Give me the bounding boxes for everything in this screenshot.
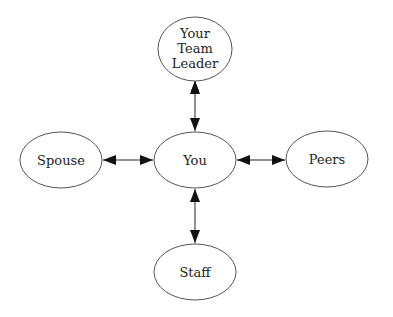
peers-label: Peers (309, 152, 345, 167)
leader-label-line-1: Your (179, 26, 211, 41)
arrow-down-to-staff (190, 230, 200, 243)
arrow-left-to-spouse (103, 155, 116, 165)
arrow-up-to-you (190, 189, 200, 202)
arrow-down-to-you (190, 118, 200, 131)
node-spouse: Spouse (20, 132, 102, 188)
staff-label: Staff (179, 265, 212, 280)
node-you: You (154, 132, 236, 188)
you-label: You (182, 153, 207, 168)
arrow-right-to-you (140, 155, 153, 165)
relationship-diagram: Your Team Leader You Spouse Peers Staff (0, 0, 393, 317)
node-staff: Staff (154, 244, 236, 300)
leader-label-line-2: Team (177, 41, 212, 56)
node-leader: Your Team Leader (158, 17, 232, 81)
node-peers: Peers (286, 131, 368, 187)
arrow-left-to-you (237, 155, 250, 165)
arrow-right-to-peers (272, 155, 285, 165)
leader-label-line-3: Leader (172, 56, 219, 71)
spouse-label: Spouse (37, 153, 85, 168)
arrow-up-to-leader (190, 81, 200, 94)
